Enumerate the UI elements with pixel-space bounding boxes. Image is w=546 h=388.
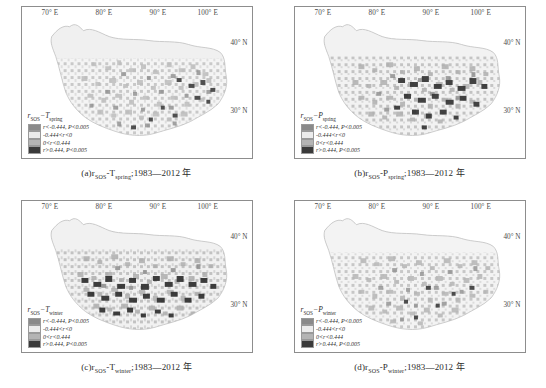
legend-swatch-1: [28, 131, 41, 139]
legend-swatch-0: [301, 124, 314, 132]
lat-tick-40n: 40° N: [503, 39, 520, 47]
legend-label-1: -0.444<r<0: [316, 132, 345, 138]
legend-swatch-1: [301, 325, 314, 333]
legend-swatch-1: [301, 131, 314, 139]
figure-panel-grid: 70° E 80° E 90° E 100° E 40° N 30° N rSO…: [0, 0, 546, 388]
legend-row: r<-0.444, P<0.005: [28, 318, 90, 326]
legend-row: r>0.444, P<0.005: [28, 340, 90, 348]
lon-tick-70e: 70° E: [42, 203, 59, 211]
map-frame-a: 70° E 80° E 90° E 100° E 40° N 30° N rSO…: [21, 6, 253, 159]
legend-row: r<-0.444, P<0.005: [301, 124, 363, 132]
panel-caption-c: (c)rSOS-Twinter;1983—2012 年: [81, 360, 192, 374]
lat-tick-30n: 30° N: [503, 301, 520, 309]
legend-label-3: r>0.444, P<0.005: [43, 147, 87, 153]
lon-tick-100e: 100° E: [198, 203, 218, 211]
lat-tick-40n: 40° N: [230, 39, 247, 47]
legend-row: 0<r<0.444: [28, 333, 90, 341]
legend-label-0: r<-0.444, P<0.005: [316, 124, 362, 130]
legend-swatch-0: [28, 318, 41, 326]
legend-row: r<-0.444, P<0.005: [28, 124, 90, 132]
lon-tick-90e: 90° E: [150, 203, 167, 211]
legend-row: 0<r<0.444: [301, 333, 363, 341]
lon-tick-70e: 70° E: [315, 9, 332, 17]
lat-tick-40n: 40° N: [230, 233, 247, 241]
legend-swatch-3: [28, 146, 41, 154]
legend-label-2: 0<r<0.444: [43, 140, 70, 146]
legend-row: r>0.444, P<0.005: [28, 146, 90, 154]
legend-label-3: r>0.444, P<0.005: [316, 147, 360, 153]
legend-label-2: 0<r<0.444: [316, 334, 343, 340]
legend-title-b: rSOS−Pspring: [301, 111, 363, 122]
legend-swatch-0: [301, 318, 314, 326]
legend-row: r<-0.444, P<0.005: [301, 318, 363, 326]
legend-swatch-2: [301, 139, 314, 147]
lon-tick-80e: 80° E: [96, 203, 113, 211]
panel-caption-d: (d)rSOS-Pwinter;1983—2012 年: [354, 360, 465, 374]
legend-swatch-3: [28, 340, 41, 348]
legend-row: r>0.444, P<0.005: [301, 340, 363, 348]
legend-row: r>0.444, P<0.005: [301, 146, 363, 154]
legend-swatch-1: [28, 325, 41, 333]
legend-label-1: -0.444<r<0: [43, 132, 72, 138]
lat-tick-40n: 40° N: [503, 233, 520, 241]
lon-tick-90e: 90° E: [150, 9, 167, 17]
legend-label-0: r<-0.444, P<0.005: [43, 318, 89, 324]
legend-row: -0.444<r<0: [301, 131, 363, 139]
lon-tick-90e: 90° E: [423, 203, 440, 211]
legend-row: -0.444<r<0: [28, 131, 90, 139]
legend-swatch-3: [301, 340, 314, 348]
panel-a: 70° E 80° E 90° E 100° E 40° N 30° N rSO…: [0, 0, 273, 194]
legend-swatch-2: [28, 139, 41, 147]
legend-label-1: -0.444<r<0: [316, 326, 345, 332]
lon-tick-100e: 100° E: [471, 203, 491, 211]
lat-tick-30n: 30° N: [230, 301, 247, 309]
map-frame-b: 70° E 80° E 90° E 100° E 40° N 30° N rSO…: [294, 6, 526, 159]
panel-caption-b: (b)rSOS-Pspring;1983—2012 年: [354, 166, 464, 180]
panel-b: 70° E 80° E 90° E 100° E 40° N 30° N rSO…: [273, 0, 546, 194]
panel-c: 70° E 80° E 90° E 100° E 40° N 30° N rSO…: [0, 194, 273, 388]
lon-tick-80e: 80° E: [369, 9, 386, 17]
legend-label-2: 0<r<0.444: [43, 334, 70, 340]
panel-caption-a: (a)rSOS-Tspring;1983—2012 年: [81, 166, 191, 180]
legend-c: rSOS−Twinter r<-0.444, P<0.005 -0.444<r<…: [28, 305, 90, 348]
lon-tick-100e: 100° E: [471, 9, 491, 17]
lon-tick-90e: 90° E: [423, 9, 440, 17]
lat-tick-30n: 30° N: [503, 107, 520, 115]
legend-label-1: -0.444<r<0: [43, 326, 72, 332]
lat-tick-30n: 30° N: [230, 107, 247, 115]
legend-title-d: rSOS−Pwinter: [301, 305, 363, 316]
map-frame-c: 70° E 80° E 90° E 100° E 40° N 30° N rSO…: [21, 200, 253, 353]
legend-label-3: r>0.444, P<0.005: [43, 341, 87, 347]
legend-b: rSOS−Pspring r<-0.444, P<0.005 -0.444<r<…: [301, 111, 363, 154]
legend-label-0: r<-0.444, P<0.005: [43, 124, 89, 130]
lon-tick-80e: 80° E: [369, 203, 386, 211]
lon-tick-70e: 70° E: [315, 203, 332, 211]
legend-swatch-0: [28, 124, 41, 132]
map-frame-d: 70° E 80° E 90° E 100° E 40° N 30° N rSO…: [294, 200, 526, 353]
lon-tick-100e: 100° E: [198, 9, 218, 17]
legend-title-c: rSOS−Twinter: [28, 305, 90, 316]
legend-title-a: rSOS−Tspring: [28, 111, 90, 122]
legend-swatch-3: [301, 146, 314, 154]
panel-d: 70° E 80° E 90° E 100° E 40° N 30° N rSO…: [273, 194, 546, 388]
legend-label-2: 0<r<0.444: [316, 140, 343, 146]
legend-row: -0.444<r<0: [301, 325, 363, 333]
legend-row: -0.444<r<0: [28, 325, 90, 333]
legend-swatch-2: [28, 333, 41, 341]
legend-a: rSOS−Tspring r<-0.444, P<0.005 -0.444<r<…: [28, 111, 90, 154]
legend-row: 0<r<0.444: [28, 139, 90, 147]
lon-tick-70e: 70° E: [42, 9, 59, 17]
legend-d: rSOS−Pwinter r<-0.444, P<0.005 -0.444<r<…: [301, 305, 363, 348]
legend-label-3: r>0.444, P<0.005: [316, 341, 360, 347]
legend-row: 0<r<0.444: [301, 139, 363, 147]
legend-swatch-2: [301, 333, 314, 341]
lon-tick-80e: 80° E: [96, 9, 113, 17]
legend-label-0: r<-0.444, P<0.005: [316, 318, 362, 324]
